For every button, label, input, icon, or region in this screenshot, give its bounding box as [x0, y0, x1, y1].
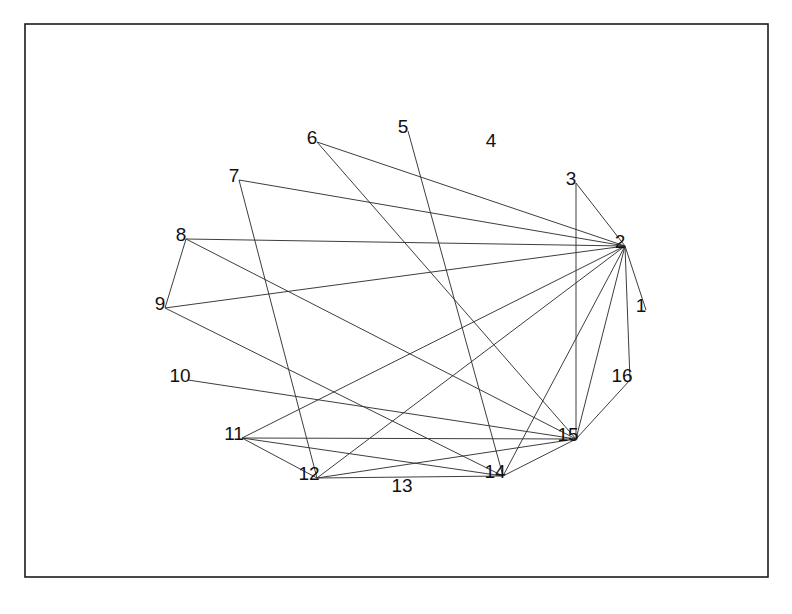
node-label-9: 9 [155, 294, 166, 313]
node-label-15: 15 [557, 425, 578, 444]
node-label-3: 3 [566, 169, 577, 188]
node-label-7: 7 [229, 166, 240, 185]
node-label-8: 8 [176, 225, 187, 244]
node-label-6: 6 [307, 128, 318, 147]
node-label-12: 12 [298, 464, 319, 483]
node-label-11: 11 [224, 424, 244, 443]
node-label-1: 1 [636, 296, 647, 315]
node-label-16: 16 [611, 366, 632, 385]
node-label-2: 2 [615, 232, 626, 251]
node-label-14: 14 [484, 462, 505, 481]
node-label-10: 10 [169, 366, 190, 385]
node-label-4: 4 [486, 131, 497, 150]
graph-canvas [0, 0, 792, 614]
node-label-5: 5 [398, 117, 409, 136]
graph-figure: 12345678910111213141516 [0, 0, 792, 614]
node-label-13: 13 [391, 476, 412, 495]
